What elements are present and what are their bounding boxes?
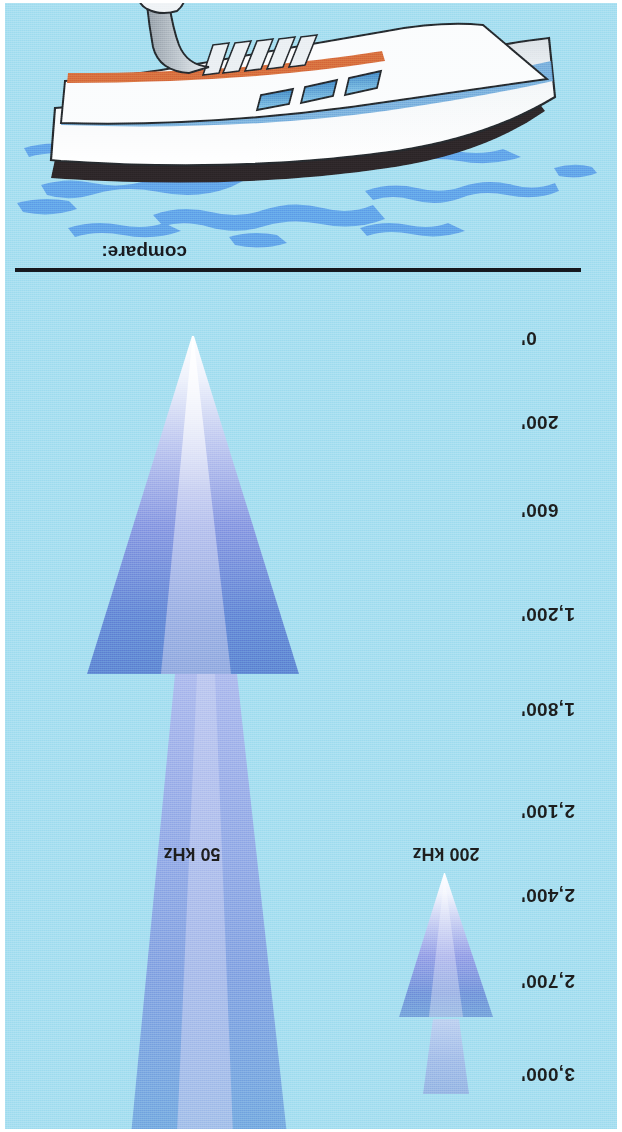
depth-tick-0: 0' bbox=[521, 327, 617, 349]
sonar-beam-diagram: 0' 200' 600' 1,200' 1,800' 2,100' 2,400'… bbox=[5, 3, 617, 1129]
depth-tick-1200: 1,200' bbox=[521, 603, 617, 625]
beam-200khz: 200 kHz bbox=[371, 329, 521, 1129]
depth-tick-200: 200' bbox=[521, 411, 617, 433]
figure-page: 0' 200' 600' 1,200' 1,800' 2,100' 2,400'… bbox=[0, 0, 622, 1132]
depth-tick-600: 600' bbox=[521, 499, 617, 521]
depth-tick-2400: 2,400' bbox=[521, 884, 617, 906]
section-divider bbox=[15, 268, 581, 272]
beam-50khz-cone bbox=[47, 329, 337, 1129]
depth-tick-3000: 3,000' bbox=[521, 1063, 617, 1085]
beam-50khz-label: 50 kHz bbox=[47, 843, 337, 864]
depth-tick-2100: 2,100' bbox=[521, 800, 617, 822]
beam-200khz-label: 200 kHz bbox=[371, 843, 521, 864]
boat-illustration bbox=[5, 3, 617, 249]
beam-200khz-cone bbox=[371, 329, 521, 1129]
depth-tick-1800: 1,800' bbox=[521, 698, 617, 720]
depth-scale: 0' 200' 600' 1,200' 1,800' 2,100' 2,400'… bbox=[509, 309, 617, 1129]
beam-50khz: 50 kHz bbox=[47, 329, 337, 1129]
boat-artwork bbox=[5, 3, 617, 249]
transducer-pod bbox=[139, 3, 185, 13]
depth-tick-2700: 2,700' bbox=[521, 970, 617, 992]
